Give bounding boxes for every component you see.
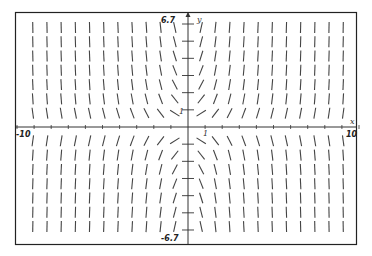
slope-segment bbox=[244, 22, 245, 33]
slope-segment bbox=[75, 164, 76, 175]
slope-segment bbox=[75, 65, 76, 76]
slope-segment bbox=[146, 22, 147, 33]
x-unit-label: 1 bbox=[203, 129, 208, 138]
slope-segment bbox=[272, 65, 273, 76]
slope-segment bbox=[243, 36, 244, 47]
slope-segment bbox=[300, 178, 301, 189]
slope-segment bbox=[103, 65, 104, 76]
slope-segment bbox=[244, 221, 245, 232]
slope-segment bbox=[89, 79, 90, 90]
slope-segment bbox=[89, 65, 90, 76]
y-min-label: -6.7 bbox=[161, 234, 179, 243]
slope-segment bbox=[315, 79, 316, 90]
x-min-label: -10 bbox=[16, 130, 31, 139]
slope-segment bbox=[272, 193, 273, 204]
slope-segment bbox=[118, 51, 119, 62]
slope-segment bbox=[272, 178, 273, 189]
slope-segment bbox=[104, 193, 105, 204]
slope-segment bbox=[229, 22, 230, 33]
x-max-label: 10 bbox=[346, 130, 358, 139]
slope-segment bbox=[104, 51, 105, 62]
slope-segment bbox=[329, 164, 330, 175]
slope-segment bbox=[258, 207, 259, 218]
plot-frame bbox=[16, 13, 357, 245]
slope-segment bbox=[132, 22, 133, 33]
slope-segment bbox=[89, 178, 90, 189]
slope-segment bbox=[61, 79, 62, 90]
slope-segment bbox=[103, 178, 104, 189]
slope-segment bbox=[75, 79, 76, 90]
slope-segment bbox=[75, 178, 76, 189]
slope-segment bbox=[132, 221, 133, 232]
slope-segment bbox=[32, 150, 33, 161]
slope-segment bbox=[258, 36, 259, 47]
slope-segment bbox=[343, 93, 344, 104]
slope-segment bbox=[286, 178, 287, 189]
slope-segment bbox=[343, 150, 344, 161]
slope-segment bbox=[47, 164, 48, 175]
slope-segment bbox=[118, 193, 119, 204]
slope-segment bbox=[118, 207, 119, 218]
y-max-label: 6.7 bbox=[161, 16, 176, 25]
slope-segment bbox=[61, 164, 62, 175]
slope-segment bbox=[132, 207, 133, 218]
slope-segment bbox=[300, 79, 301, 90]
slope-field-chart: 6.7 -6.7 -10 10 1 1 y x bbox=[0, 0, 372, 256]
slope-segment bbox=[329, 79, 330, 90]
slope-segment bbox=[32, 93, 33, 104]
y-unit-label: 1 bbox=[179, 107, 184, 116]
slope-segment bbox=[286, 65, 287, 76]
slope-segment bbox=[118, 36, 119, 47]
slope-segment bbox=[258, 51, 259, 62]
slope-segment bbox=[272, 51, 273, 62]
slope-segment bbox=[300, 65, 301, 76]
slope-segment bbox=[132, 36, 133, 47]
slope-segment bbox=[286, 164, 287, 175]
slope-segment bbox=[89, 164, 90, 175]
slope-segment bbox=[243, 207, 244, 218]
slope-segment bbox=[258, 193, 259, 204]
slope-segment bbox=[229, 221, 230, 232]
x-axis-name: x bbox=[350, 117, 355, 126]
slope-segment bbox=[286, 79, 287, 90]
slope-segment bbox=[315, 164, 316, 175]
slope-segment bbox=[300, 164, 301, 175]
slope-segment bbox=[47, 79, 48, 90]
slope-segment bbox=[146, 221, 147, 232]
y-axis-name: y bbox=[196, 15, 202, 24]
